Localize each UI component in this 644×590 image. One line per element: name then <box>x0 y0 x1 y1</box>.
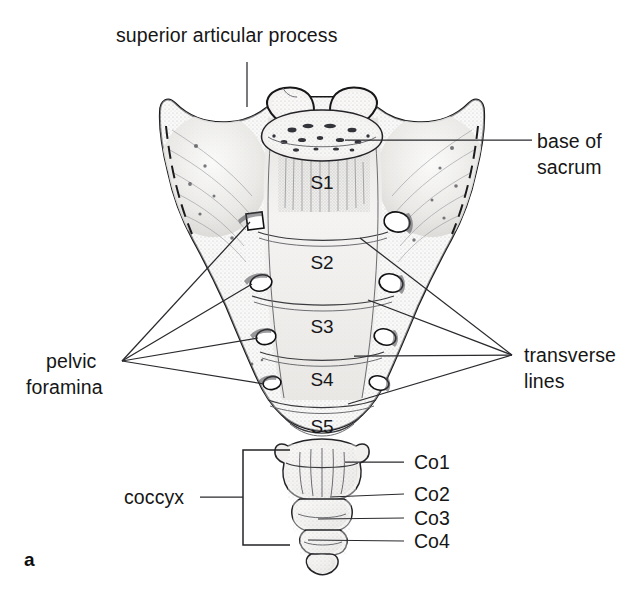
label-transverse-lines-line2: lines <box>524 370 565 392</box>
coccygeal-vertebra-1 <box>275 439 369 501</box>
label-coccygeal-segment-co4: Co4 <box>414 530 450 552</box>
label-coccygeal-segment-co1: Co1 <box>414 451 450 473</box>
coccyx-bracket <box>200 450 290 545</box>
label-superior-articular-process: superior articular process <box>116 24 338 46</box>
coccygeal-vertebra-2 <box>292 499 352 533</box>
coccyx-bone <box>275 439 369 575</box>
label-transverse-lines-line1: transverse <box>524 344 616 366</box>
label-sacral-segment-s3: S3 <box>310 316 333 337</box>
sacrum-coccyx-illustration: superior articular process base of sacru… <box>0 0 644 590</box>
label-pelvic-foramina-line1: pelvic <box>46 350 97 372</box>
label-sacral-segment-s4: S4 <box>310 369 334 390</box>
label-base-of-sacrum-line1: base of <box>537 130 602 152</box>
label-coccygeal-segment-co2: Co2 <box>414 483 450 505</box>
coccygeal-vertebra-3 <box>300 530 347 556</box>
label-coccygeal-segment-co3: Co3 <box>414 507 450 529</box>
anatomy-figure-sacrum-coccyx: superior articular process base of sacru… <box>0 0 644 590</box>
coccygeal-vertebra-4 <box>306 554 338 575</box>
figure-panel-label: a <box>24 549 35 570</box>
label-sacral-segment-s2: S2 <box>310 252 333 273</box>
label-sacral-segment-s5: S5 <box>310 416 333 437</box>
label-sacral-segment-s1: S1 <box>310 172 333 193</box>
label-coccyx: coccyx <box>124 486 184 508</box>
label-pelvic-foramina-line2: foramina <box>26 376 103 398</box>
label-base-of-sacrum-line2: sacrum <box>537 156 602 178</box>
base-of-sacrum-surface <box>262 110 383 161</box>
